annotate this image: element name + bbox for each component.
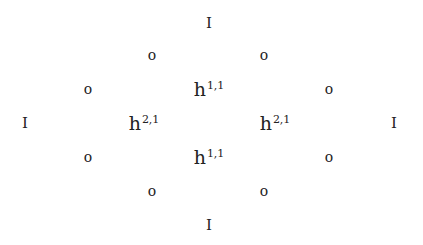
hodge-base: h (194, 146, 206, 168)
hodge-number-h02: o (325, 82, 333, 96)
hodge-number-h03: I (391, 116, 397, 131)
hodge-number-h10: o (148, 48, 156, 62)
hodge-number-h20: o (84, 82, 92, 96)
hodge-number-h31: o (84, 150, 92, 164)
hodge-superscript: 1,1 (207, 79, 225, 92)
hodge-number-h00: I (206, 16, 212, 31)
hodge-base: h (260, 112, 272, 134)
hodge-superscript: 1,1 (207, 147, 225, 160)
hodge-diamond: I o o o h1,1 o I h2,1 h2,1 I o h1,1 o o … (0, 0, 423, 245)
hodge-number-h11-bottom: h1,1 (194, 148, 225, 167)
hodge-number-h21-left: h2,1 (129, 114, 160, 133)
hodge-number-h11-top: h1,1 (194, 80, 225, 99)
hodge-number-h13: o (325, 150, 333, 164)
hodge-number-h32: o (148, 184, 156, 198)
hodge-superscript: 2,1 (273, 113, 291, 126)
hodge-number-h01: o (260, 48, 268, 62)
hodge-superscript: 2,1 (142, 113, 160, 126)
hodge-number-h23: o (260, 184, 268, 198)
hodge-number-h21-right: h2,1 (260, 114, 291, 133)
hodge-number-h30: I (22, 116, 28, 131)
hodge-number-h33: I (206, 218, 212, 233)
hodge-base: h (194, 78, 206, 100)
hodge-base: h (129, 112, 141, 134)
